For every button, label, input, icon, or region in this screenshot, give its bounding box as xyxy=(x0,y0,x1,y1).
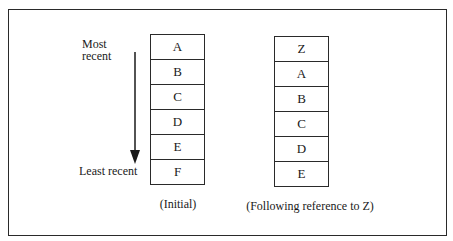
stack-cell: B xyxy=(275,86,328,111)
initial-stack: A B C D E F xyxy=(150,34,205,185)
following-caption: (Following reference to Z) xyxy=(240,199,380,214)
stack-cell: C xyxy=(275,111,328,136)
stack-cell: F xyxy=(151,159,204,184)
least-recent-label: Least recent xyxy=(79,165,137,177)
recent-label: recent xyxy=(82,50,111,62)
stack-cell: Z xyxy=(275,37,328,61)
stack-cell: A xyxy=(151,35,204,59)
stack-cell: A xyxy=(275,61,328,86)
following-stack: Z A B C D E xyxy=(274,36,329,187)
stack-cell: D xyxy=(275,136,328,161)
stack-cell: D xyxy=(151,109,204,134)
stack-cell: E xyxy=(151,134,204,159)
down-arrow-icon xyxy=(130,52,140,164)
stack-cell: B xyxy=(151,59,204,84)
stack-cell: C xyxy=(151,84,204,109)
diagram-frame xyxy=(8,9,447,236)
stack-cell: E xyxy=(275,161,328,186)
most-recent-label: Most recent xyxy=(82,38,111,62)
initial-caption: (Initial) xyxy=(150,197,206,212)
